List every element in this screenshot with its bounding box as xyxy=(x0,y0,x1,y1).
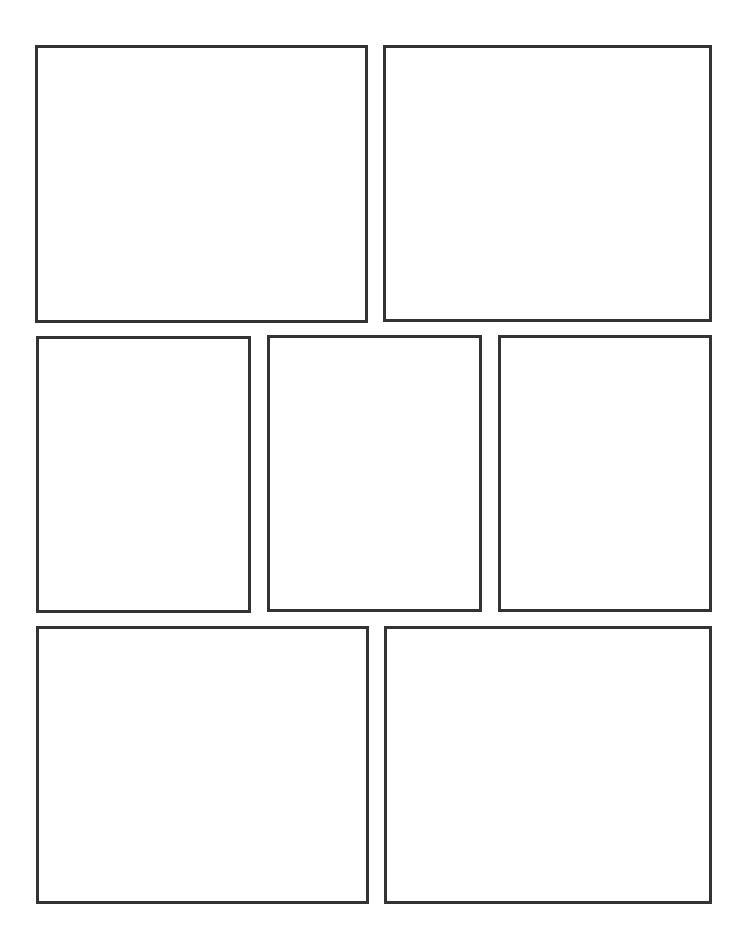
panel-7 xyxy=(384,626,712,904)
panel-3 xyxy=(36,336,251,613)
panel-1 xyxy=(35,45,368,323)
comic-page xyxy=(0,0,743,939)
panel-2 xyxy=(383,45,712,322)
panel-6 xyxy=(36,626,369,904)
panel-5 xyxy=(498,335,712,612)
panel-4 xyxy=(267,335,482,612)
